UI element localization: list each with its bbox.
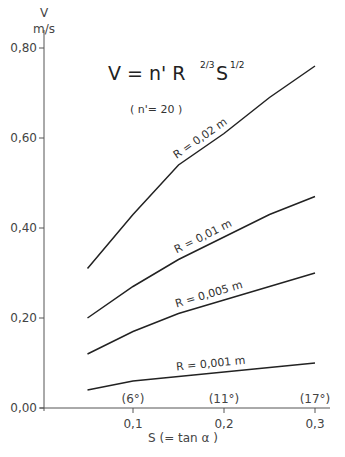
- formula-exponent-r: 2/3: [200, 60, 214, 70]
- x-axis-title: S (= tan α ): [148, 431, 218, 445]
- formula-s: S: [216, 62, 228, 84]
- formula-main: V = n' R: [108, 62, 186, 84]
- x-tick-label: 0,1: [123, 417, 142, 431]
- y-tick-label: 0,20: [10, 311, 37, 325]
- x-tick-angle-label: (17°): [300, 392, 331, 406]
- axes: 0,000,200,400,600,800,1(6°)0,2(11°)0,3(1…: [10, 30, 330, 431]
- chart-canvas: 0,000,200,400,600,800,1(6°)0,2(11°)0,3(1…: [0, 0, 345, 457]
- x-tick-label: 0,2: [214, 417, 233, 431]
- curve-label: R = 0,02 m: [171, 115, 230, 161]
- y-tick-label: 0,80: [10, 41, 37, 55]
- formula: V = n' R 2/3 S 1/2 ( n'= 20 ): [108, 60, 244, 116]
- y-tick-label: 0,40: [10, 221, 37, 235]
- y-tick-label: 0,60: [10, 131, 37, 145]
- curve-2: [88, 273, 316, 354]
- y-tick-label: 0,00: [10, 401, 37, 415]
- y-axis-variable: V: [40, 6, 49, 20]
- y-axis-unit: m/s: [33, 22, 55, 36]
- curve-label: R = 0,005 m: [174, 278, 244, 310]
- x-tick-label: 0,3: [305, 417, 324, 431]
- formula-exponent-s: 1/2: [230, 60, 244, 70]
- curves: R = 0,02 mR = 0,01 mR = 0,005 mR = 0,001…: [88, 66, 316, 390]
- x-tick-angle-label: (6°): [122, 392, 145, 406]
- chart-figure: 0,000,200,400,600,800,1(6°)0,2(11°)0,3(1…: [0, 0, 345, 457]
- x-tick-angle-label: (11°): [209, 392, 240, 406]
- formula-note: ( n'= 20 ): [130, 103, 182, 116]
